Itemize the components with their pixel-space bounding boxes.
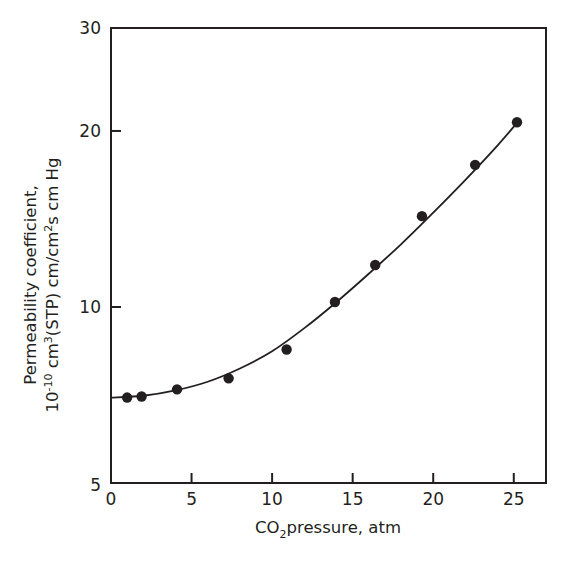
permeability-chart: 0510152025 5102030 CO2pressure, atm Perm… bbox=[0, 0, 566, 562]
data-point-marker bbox=[136, 391, 146, 401]
y-axis-title-line1: Permeability coefficient, bbox=[21, 185, 40, 384]
y-tick-label: 5 bbox=[90, 475, 101, 495]
x-axis-ticks: 0510152025 bbox=[106, 473, 525, 509]
x-tick-label: 10 bbox=[261, 489, 283, 509]
data-point-marker bbox=[223, 373, 233, 383]
y-axis-ticks: 5102030 bbox=[79, 18, 121, 495]
fitted-curve bbox=[111, 121, 519, 398]
data-point-marker bbox=[512, 117, 522, 127]
data-point-marker bbox=[330, 297, 340, 307]
data-points bbox=[122, 117, 522, 403]
x-tick-label: 15 bbox=[342, 489, 364, 509]
y-axis-title-line2: 10-10 cm3(STP) cm/cm2s cm Hg bbox=[42, 158, 62, 413]
data-point-marker bbox=[172, 384, 182, 394]
data-point-marker bbox=[281, 344, 291, 354]
y-axis-title: Permeability coefficient, 10-10 cm3(STP)… bbox=[21, 158, 62, 413]
data-point-marker bbox=[122, 392, 132, 402]
x-tick-label: 0 bbox=[106, 489, 117, 509]
plot-frame bbox=[111, 28, 546, 483]
data-point-marker bbox=[417, 211, 427, 221]
x-tick-label: 5 bbox=[186, 489, 197, 509]
y-tick-label: 20 bbox=[79, 121, 101, 141]
y-tick-label: 10 bbox=[79, 297, 101, 317]
data-point-marker bbox=[370, 260, 380, 270]
x-tick-label: 25 bbox=[503, 489, 525, 509]
y-tick-label: 30 bbox=[79, 18, 101, 38]
data-point-marker bbox=[470, 160, 480, 170]
x-tick-label: 20 bbox=[422, 489, 444, 509]
x-axis-title: CO2pressure, atm bbox=[255, 518, 401, 541]
